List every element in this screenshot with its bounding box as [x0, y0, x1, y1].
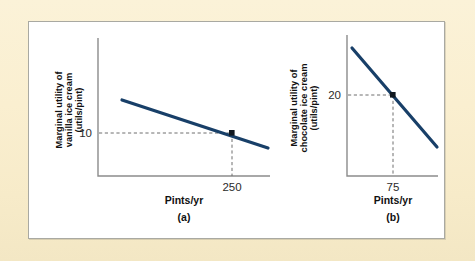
- figure-root: Marginal utility of vanilla ice cream (u…: [0, 0, 475, 261]
- chart-a-x-tick-label: 250: [222, 181, 241, 193]
- chart-a-curve: [122, 100, 268, 148]
- chart-b-y-axis-label: Marginal utility of chocolate ice cream …: [289, 64, 319, 153]
- chart-b: Marginal utility of chocolate ice cream …: [289, 35, 438, 223]
- chart-b-y-axis-label-line3: (utils/pint): [309, 86, 319, 131]
- chart-a-y-axis-label-line2: vanilla ice cream: [64, 73, 74, 147]
- chart-a-marked-point: [229, 130, 235, 136]
- chart-b-y-axis-label-line1: Marginal utility of: [289, 69, 299, 147]
- chart-a-x-axis-label: Pints/yr: [165, 194, 204, 206]
- chart-a-y-axis-label-line1: Marginal utility of: [54, 71, 64, 149]
- chart-b-x-tick-label: 75: [387, 181, 400, 193]
- chart-a-caption: (a): [178, 211, 191, 223]
- chart-b-y-axis-label-line2: chocolate ice cream: [299, 64, 309, 153]
- chart-a: Marginal utility of vanilla ice cream (u…: [54, 38, 270, 223]
- chart-b-x-axis-label: Pints/yr: [374, 194, 413, 206]
- chart-b-caption: (b): [386, 211, 399, 223]
- chart-a-y-tick-label: 10: [79, 127, 92, 139]
- chart-a-axes: [98, 38, 270, 176]
- chart-a-y-axis-label-line3: (utils/pint): [74, 88, 84, 133]
- chart-b-y-tick-label: 20: [328, 89, 341, 101]
- figure-svg: Marginal utility of vanilla ice cream (u…: [0, 0, 475, 261]
- chart-b-marked-point: [390, 92, 396, 98]
